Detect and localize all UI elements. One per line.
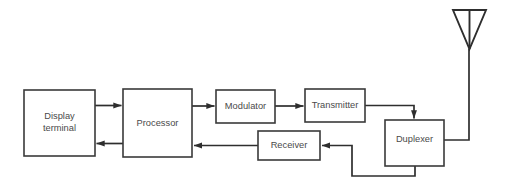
block-duplexer-label: Duplexer	[396, 134, 433, 144]
block-transmitter-label: Transmitter	[312, 100, 359, 110]
block-processor-label: Processor	[137, 118, 179, 128]
block-processor[interactable]: Processor	[123, 89, 192, 157]
block-diagram: Display terminal Processor Modulator Tra…	[0, 0, 514, 191]
block-display-terminal-label-line1: Display	[44, 111, 75, 121]
block-modulator[interactable]: Modulator	[216, 90, 275, 123]
block-duplexer[interactable]: Duplexer	[385, 120, 444, 166]
block-receiver-label: Receiver	[271, 140, 308, 150]
block-display-terminal-label-line2: terminal	[43, 123, 76, 133]
antenna-icon	[453, 10, 486, 49]
block-modulator-label: Modulator	[225, 101, 266, 111]
diagram-canvas: Display terminal Processor Modulator Tra…	[0, 0, 514, 191]
connector-transmitter-to-duplexer	[365, 106, 414, 119]
block-transmitter[interactable]: Transmitter	[305, 89, 365, 122]
block-receiver[interactable]: Receiver	[258, 131, 320, 160]
block-display-terminal[interactable]: Display terminal	[24, 90, 95, 156]
connector-duplexer-to-antenna	[444, 49, 469, 140]
